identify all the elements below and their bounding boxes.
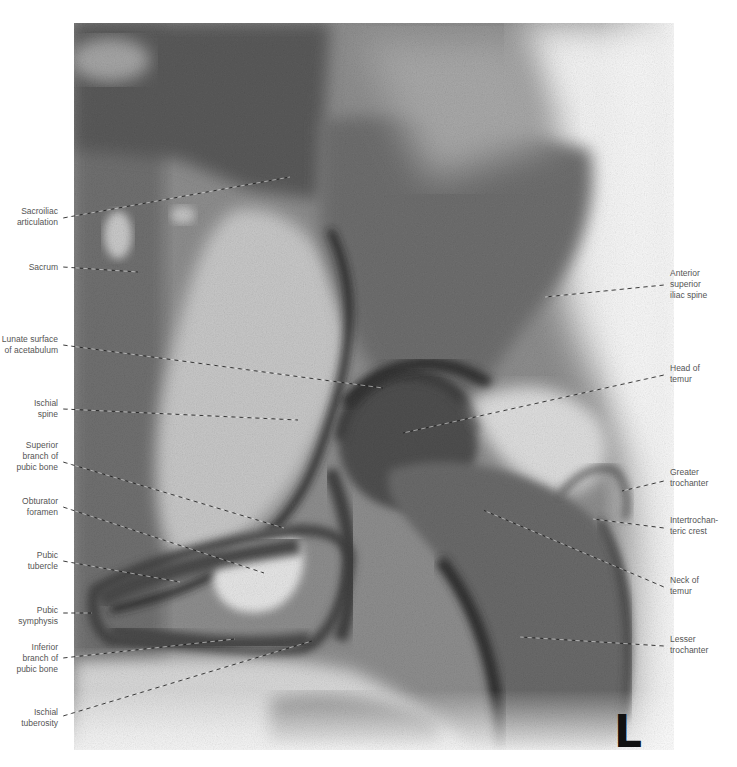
side-marker-l: L xyxy=(614,710,642,754)
label-lunate-surface-of-acetabulum: Lunate surface of acetabulum xyxy=(0,334,58,356)
radiograph-figure: Sacroiliac articulationSacrumLunate surf… xyxy=(0,0,737,767)
label-inferior-branch-of-pubic-bone: Inferior branch of pubic bone xyxy=(0,642,58,675)
pelvis-radiograph-image xyxy=(0,0,737,767)
label-obturator-foramen: Obturator foramen xyxy=(0,496,58,518)
label-sacrum: Sacrum xyxy=(0,262,58,273)
label-head-of-femur: Head of temur xyxy=(670,363,737,385)
label-superior-branch-of-pubic-bone: Superior branch of pubic bone xyxy=(0,440,58,473)
label-ischial-spine: Ischial spine xyxy=(0,398,58,420)
label-pubic-symphysis: Pubic symphysis xyxy=(0,605,58,627)
label-ischial-tuberosity: Ischial tuberosity xyxy=(0,707,58,729)
label-sacroiliac-articulation: Sacroiliac articulation xyxy=(0,206,58,228)
label-intertrochanteric-crest: Intertrochan- teric crest xyxy=(670,515,737,537)
label-lesser-trochanter: Lesser trochanter xyxy=(670,634,737,656)
label-anterior-superior-iliac-spine: Anterior superior iliac spine xyxy=(670,268,737,301)
label-pubic-tubercle: Pubic tubercle xyxy=(0,550,58,572)
label-greater-trochanter: Greater trochanter xyxy=(670,467,737,489)
label-neck-of-femur: Neck of temur xyxy=(670,575,737,597)
